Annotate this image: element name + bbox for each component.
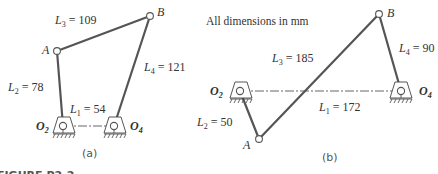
ground-pivot-o4-b — [390, 82, 412, 103]
label-l2-b: L2 = 50 — [196, 115, 232, 131]
ground-pivot-o4-a — [104, 117, 126, 138]
link-l3-b — [259, 14, 379, 139]
panel-b: All dimensions in mm A B L3 = 185 L4 = — [196, 6, 434, 164]
label-joint-a-a: A — [41, 43, 50, 57]
figure-caption: FIGURE P2-2 — [0, 169, 74, 174]
link-l2-a — [57, 51, 63, 126]
joint-a-a — [54, 48, 61, 55]
label-o4-b: O4 — [419, 84, 432, 100]
label-l3-b: L3 = 185 — [271, 51, 313, 67]
dimensions-note: All dimensions in mm — [206, 15, 309, 27]
panel-a: A B L3 = 109 L2 = 78 L4 = 121 L1 = 54 O2… — [7, 5, 185, 160]
label-l3-a: L3 = 109 — [54, 13, 96, 29]
label-o4-a: O4 — [130, 119, 143, 135]
joint-b-b — [376, 11, 383, 18]
ground-pivot-o2-a — [53, 117, 75, 138]
label-l1-b: L1 = 172 — [318, 100, 360, 116]
label-joint-a-b: A — [242, 138, 251, 152]
label-l1-a: L1 = 54 — [69, 102, 105, 118]
joint-a-b — [256, 136, 263, 143]
panel-label-a: (a) — [82, 147, 97, 160]
panel-label-b: (b) — [322, 151, 338, 164]
label-l4-a: L4 = 121 — [143, 60, 185, 76]
label-l2-a: L2 = 78 — [7, 80, 43, 96]
joint-b-a — [147, 13, 154, 20]
link-l4-b — [379, 14, 401, 91]
label-o2-a: O2 — [36, 119, 49, 135]
ground-pivot-o2-b — [230, 82, 252, 103]
label-joint-b-b: B — [387, 6, 395, 20]
label-l4-b: L4 = 90 — [398, 41, 434, 57]
fourbar-linkage-figure: A B L3 = 109 L2 = 78 L4 = 121 L1 = 54 O2… — [0, 0, 438, 174]
label-joint-b-a: B — [157, 5, 165, 19]
label-o2-b: O2 — [210, 84, 223, 100]
